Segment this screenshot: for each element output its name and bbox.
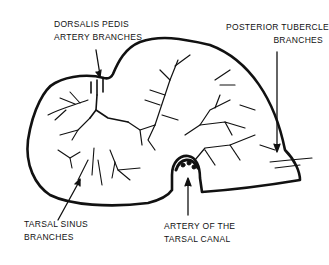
label-line: TARSAL SINUS <box>24 218 88 231</box>
label-line: BRANCHES <box>226 34 329 47</box>
dorsalis-pedis-vessels <box>90 79 128 122</box>
branches-tarsal-sinus <box>58 148 140 185</box>
label-tarsal-canal: ARTERY OF THE TARSAL CANAL <box>164 220 235 246</box>
branches-central <box>128 55 275 165</box>
label-line: ARTERY BRANCHES <box>54 31 142 44</box>
branches-posterior-tubercle <box>270 158 312 168</box>
bone-outline <box>27 38 300 205</box>
branches-left-upper <box>48 92 90 140</box>
label-tarsal-sinus: TARSAL SINUS BRANCHES <box>24 218 88 244</box>
label-line: TARSAL CANAL <box>164 233 235 246</box>
label-line: DORSALIS PEDIS <box>54 18 142 31</box>
label-line: ARTERY OF THE <box>164 220 235 233</box>
label-line: BRANCHES <box>24 231 88 244</box>
label-line: POSTERIOR TUBERCLE <box>226 21 329 34</box>
talus-blood-supply-diagram: DORSALIS PEDIS ARTERY BRANCHES POSTERIOR… <box>0 0 329 265</box>
label-dorsalis-pedis: DORSALIS PEDIS ARTERY BRANCHES <box>54 18 142 44</box>
label-posterior-tubercle: POSTERIOR TUBERCLE BRANCHES <box>226 21 329 47</box>
